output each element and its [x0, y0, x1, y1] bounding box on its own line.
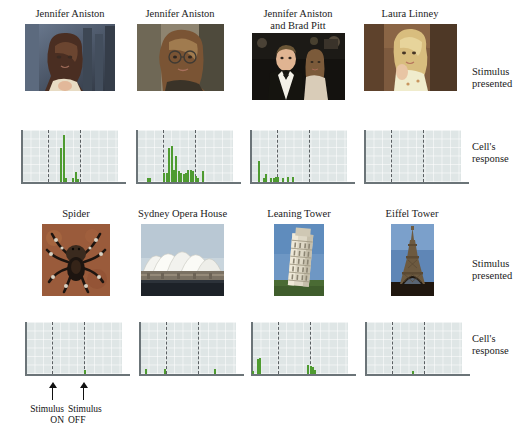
- stimulus-label: Jennifer Aniston: [20, 8, 120, 20]
- histogram-x-axis: [364, 182, 469, 184]
- histogram-bar: [77, 179, 79, 182]
- stimulus-image-jennifer-aniston-2: [137, 24, 224, 91]
- stimulus-label: Sydney Opera House: [125, 208, 240, 220]
- histogram-bar: [287, 177, 289, 182]
- response-histogram-1: [22, 130, 118, 182]
- histogram-bar: [292, 177, 294, 182]
- histogram-bar: [84, 370, 86, 374]
- histogram-bar: [258, 161, 260, 182]
- histogram-bar: [197, 178, 199, 182]
- response-histogram-6: [140, 322, 236, 374]
- stimulus-cell-2: Jennifer Aniston: [133, 8, 227, 91]
- histogram-x-axis: [21, 182, 126, 184]
- stimulus-image-eiffel-tower: [391, 224, 434, 296]
- side-label-stimulus-presented-row2: Stimulus presented: [472, 258, 512, 282]
- neuron-response-figure: Jennifer Aniston: [0, 0, 531, 445]
- stimulus-label: Laura Linney: [362, 8, 458, 20]
- histogram-bars: [26, 322, 122, 374]
- side-label-cells-response-row2: Cell's response: [472, 333, 509, 357]
- histogram-x-axis: [139, 374, 244, 376]
- histogram-x-axis: [365, 374, 470, 376]
- response-histogram-4: [365, 130, 461, 182]
- stimulus-label: Leaning Tower: [249, 208, 349, 220]
- stimulus-cell-7: Leaning Tower: [249, 208, 349, 296]
- response-histogram-3: [251, 130, 347, 182]
- stimulus-label: Jennifer Aniston and Brad Pitt: [248, 8, 348, 31]
- histogram-bar: [277, 177, 279, 182]
- stimulus-on-arrow-icon: [48, 382, 57, 400]
- histogram-bar: [259, 358, 261, 374]
- stimulus-label: Jennifer Aniston: [133, 8, 227, 20]
- histogram-bar: [65, 178, 67, 182]
- histogram-bars: [137, 130, 233, 182]
- stimulus-cell-4: Laura Linney: [362, 8, 458, 91]
- stimulus-cell-5: Spider: [28, 208, 124, 296]
- stimulus-off-arrow-icon: [79, 382, 88, 400]
- histogram-bar: [202, 171, 204, 182]
- histogram-bars: [140, 322, 236, 374]
- response-histogram-2: [137, 130, 233, 182]
- histogram-bar: [252, 371, 254, 374]
- histogram-bars: [252, 322, 348, 374]
- stimulus-label: Eiffel Tower: [362, 208, 462, 220]
- stimulus-image-sydney-opera-house: [141, 224, 224, 296]
- histogram-bar: [265, 174, 267, 182]
- histogram-x-axis: [136, 182, 241, 184]
- histogram-bar: [63, 135, 65, 182]
- stimulus-image-jennifer-aniston-1: [25, 24, 115, 91]
- stimulus-cell-3: Jennifer Aniston and Brad Pitt: [248, 8, 348, 100]
- stimulus-off-annotation: Stimulus OFF: [68, 404, 124, 426]
- histogram-bar: [314, 370, 316, 374]
- histogram-x-axis: [25, 374, 130, 376]
- histogram-bars: [22, 130, 118, 182]
- stimulus-image-leaning-tower-of-pisa: [274, 224, 324, 296]
- histogram-x-axis: [251, 374, 356, 376]
- response-histogram-5: [26, 322, 122, 374]
- histogram-bar: [164, 369, 166, 374]
- histogram-bar: [282, 178, 284, 182]
- histogram-bars: [251, 130, 347, 182]
- histogram-x-axis: [250, 182, 355, 184]
- histogram-bar: [412, 371, 414, 374]
- stimulus-on-annotation: Stimulus ON: [10, 404, 64, 426]
- side-label-cells-response-row1: Cell's response: [472, 141, 509, 165]
- histogram-bar: [214, 369, 216, 374]
- stimulus-image-laura-linney: [364, 24, 457, 91]
- response-histogram-7: [252, 322, 348, 374]
- stimulus-image-jennifer-aniston-and-brad-pitt: [252, 33, 345, 100]
- stimulus-cell-8: Eiffel Tower: [362, 208, 462, 296]
- side-label-stimulus-presented-row1: Stimulus presented: [472, 66, 512, 90]
- histogram-bars: [366, 322, 462, 374]
- stimulus-cell-1: Jennifer Aniston: [20, 8, 120, 91]
- histogram-bar: [145, 369, 147, 374]
- stimulus-cell-6: Sydney Opera House: [125, 208, 240, 296]
- histogram-bars: [365, 130, 461, 182]
- response-histogram-8: [366, 322, 462, 374]
- stimulus-image-spider: [42, 224, 110, 296]
- stimulus-label: Spider: [28, 208, 124, 220]
- histogram-bar: [149, 178, 151, 182]
